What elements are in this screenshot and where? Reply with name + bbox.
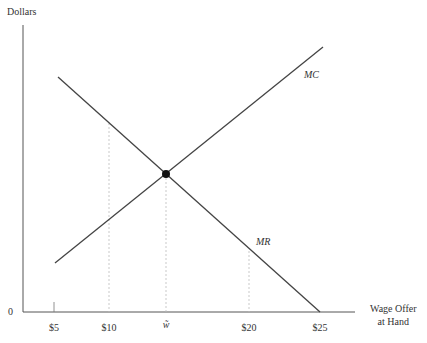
- x-axis-label: Wage Offer at Hand: [370, 302, 416, 328]
- chart-canvas: [0, 0, 427, 343]
- origin-label: 0: [8, 306, 13, 317]
- tick-label-w-tilde: w̃: [163, 319, 170, 330]
- mr-label: MR: [256, 236, 270, 247]
- mc-line: [55, 47, 323, 263]
- mr-line: [58, 77, 320, 312]
- tick-label-25: $25: [313, 322, 328, 333]
- y-axis-label: Dollars: [7, 6, 36, 17]
- tick-label-20: $20: [242, 322, 257, 333]
- mc-label: MC: [304, 69, 319, 80]
- tick-label-10: $10: [102, 322, 117, 333]
- tick-label-5: $5: [49, 322, 59, 333]
- x-axis-label-line2: at Hand: [370, 315, 416, 328]
- intersection-point: [162, 170, 170, 178]
- x-axis-label-line1: Wage Offer: [370, 302, 416, 315]
